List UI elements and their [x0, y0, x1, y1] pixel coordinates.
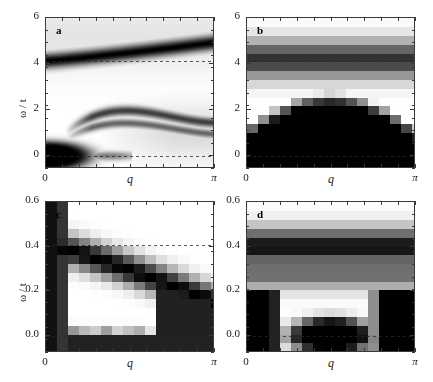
y-minor-tick — [246, 118, 249, 119]
y-minor-tick — [45, 226, 48, 227]
y-tick-label: 0.0 — [5, 327, 39, 339]
y-minor-tick — [412, 277, 415, 278]
y-tick-label: 0.6 — [5, 193, 39, 205]
x-minor-tick — [263, 17, 264, 21]
x-minor-tick — [415, 201, 416, 205]
y-minor-tick — [45, 327, 48, 328]
x-minor-tick — [62, 201, 63, 205]
y-minor-tick — [45, 339, 48, 340]
y-minor-tick — [246, 67, 249, 68]
x-minor-tick — [79, 164, 80, 168]
y-major-tick — [246, 246, 251, 247]
y-minor-tick — [412, 30, 415, 31]
y-minor-tick — [412, 93, 415, 94]
y-minor-tick — [412, 105, 415, 106]
x-minor-tick — [163, 164, 164, 168]
x-minor-tick — [263, 201, 264, 205]
x-minor-tick — [398, 17, 399, 21]
y-minor-tick — [246, 251, 249, 252]
y-minor-tick — [211, 30, 214, 31]
y-minor-tick — [412, 67, 415, 68]
y-minor-tick — [246, 168, 249, 169]
x-minor-tick — [197, 17, 198, 21]
y-minor-tick — [45, 93, 48, 94]
x-minor-tick — [347, 201, 348, 205]
x-tick-label: 0 — [231, 355, 261, 367]
y-minor-tick — [412, 118, 415, 119]
x-minor-tick — [130, 164, 131, 168]
y-tick-label: 0.4 — [206, 238, 240, 250]
x-minor-tick — [364, 348, 365, 352]
y-minor-tick — [45, 143, 48, 144]
y-minor-tick — [412, 226, 415, 227]
y-minor-tick — [412, 42, 415, 43]
y-minor-tick — [246, 55, 249, 56]
x-minor-tick — [96, 201, 97, 205]
y-major-tick — [410, 335, 415, 336]
y-tick-label: 0.2 — [5, 282, 39, 294]
x-minor-tick — [96, 17, 97, 21]
x-minor-tick — [45, 17, 46, 21]
y-minor-tick — [45, 130, 48, 131]
panel-d-x-axis-title: q — [301, 356, 361, 371]
y-minor-tick — [412, 251, 415, 252]
x-minor-tick — [415, 17, 416, 21]
y-minor-tick — [412, 239, 415, 240]
y-minor-tick — [211, 130, 214, 131]
y-minor-tick — [211, 67, 214, 68]
y-tick-label: 6 — [206, 9, 240, 21]
y-minor-tick — [246, 214, 249, 215]
x-minor-tick — [146, 348, 147, 352]
x-minor-tick — [331, 17, 332, 21]
panel-c-plot-area — [45, 201, 214, 352]
panel-c-heatmap-canvas — [46, 202, 214, 352]
y-minor-tick — [45, 80, 48, 81]
y-minor-tick — [211, 314, 214, 315]
y-minor-tick — [211, 168, 214, 169]
x-minor-tick — [113, 348, 114, 352]
x-minor-tick — [113, 164, 114, 168]
x-minor-tick — [146, 164, 147, 168]
y-minor-tick — [246, 327, 249, 328]
y-minor-tick — [211, 118, 214, 119]
panel-c-label: c — [56, 208, 61, 220]
x-minor-tick — [381, 17, 382, 21]
x-minor-tick — [163, 201, 164, 205]
x-minor-tick — [180, 164, 181, 168]
x-minor-tick — [180, 348, 181, 352]
x-minor-tick — [297, 201, 298, 205]
y-tick-label: 0.6 — [206, 193, 240, 205]
x-minor-tick — [79, 348, 80, 352]
y-tick-label: 0.4 — [5, 238, 39, 250]
x-minor-tick — [180, 201, 181, 205]
x-minor-tick — [364, 164, 365, 168]
y-minor-tick — [45, 42, 48, 43]
x-minor-tick — [415, 164, 416, 168]
y-minor-tick — [412, 352, 415, 353]
y-minor-tick — [246, 226, 249, 227]
x-minor-tick — [79, 17, 80, 21]
y-minor-tick — [45, 302, 48, 303]
x-minor-tick — [280, 348, 281, 352]
y-major-tick — [45, 109, 50, 110]
x-minor-tick — [347, 164, 348, 168]
x-tick-label: π — [199, 171, 229, 183]
y-minor-tick — [45, 239, 48, 240]
y-minor-tick — [412, 264, 415, 265]
y-minor-tick — [45, 214, 48, 215]
x-minor-tick — [398, 348, 399, 352]
x-minor-tick — [381, 201, 382, 205]
x-minor-tick — [364, 201, 365, 205]
x-tick-label: π — [199, 355, 229, 367]
x-minor-tick — [246, 17, 247, 21]
y-minor-tick — [412, 314, 415, 315]
y-minor-tick — [45, 314, 48, 315]
y-tick-label: 4 — [5, 55, 39, 67]
y-tick-label: 2 — [206, 101, 240, 113]
y-tick-label: 6 — [5, 9, 39, 21]
x-minor-tick — [381, 348, 382, 352]
y-major-tick — [45, 63, 50, 64]
y-major-tick — [246, 63, 251, 64]
panel-a-plot-area — [45, 17, 214, 168]
x-minor-tick — [62, 348, 63, 352]
